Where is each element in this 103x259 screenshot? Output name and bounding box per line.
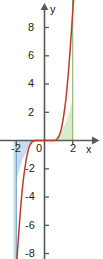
y-tick-label-2: 2 xyxy=(28,107,34,118)
x-tick-label-2: 2 xyxy=(70,143,76,154)
green-shaded-region xyxy=(45,100,73,141)
y-tick-label-neg6: -6 xyxy=(25,220,35,231)
x-tick-label-neg2: -2 xyxy=(11,143,21,154)
y-tick-label-8: 8 xyxy=(28,22,34,33)
plot-canvas xyxy=(0,0,103,259)
function-plot-figure: 8 6 4 2 -2 -4 -6 -8 -2 0 2 y x xyxy=(0,0,103,259)
y-tick-label-4: 4 xyxy=(28,78,34,89)
y-tick-label-neg8: -8 xyxy=(25,248,35,259)
y-axis-label: y xyxy=(50,4,56,15)
y-tick-label-neg4: -4 xyxy=(25,191,35,202)
x-tick-label-zero: 0 xyxy=(36,143,42,154)
y-tick-label-neg2: -2 xyxy=(25,163,35,174)
x-axis-label: x xyxy=(86,144,92,155)
y-axis-arrowhead xyxy=(41,3,49,10)
y-tick-label-6: 6 xyxy=(28,50,34,61)
x-axis-arrowhead xyxy=(92,137,100,145)
